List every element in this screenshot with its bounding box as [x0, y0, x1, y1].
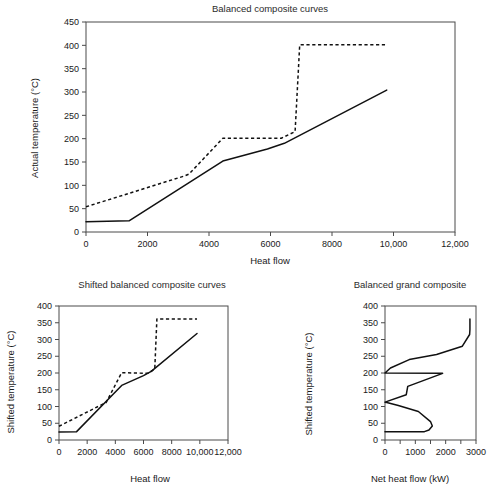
x-tick-label: 12,000	[441, 239, 469, 249]
y-tick-label: 100	[37, 402, 52, 412]
x-tick-label: 6000	[133, 447, 153, 457]
x-tick-label: 10,000	[380, 239, 408, 249]
y-tick-label: 250	[363, 351, 378, 361]
series-line	[86, 45, 387, 207]
series-line	[86, 90, 387, 222]
x-tick-label: 8000	[322, 239, 342, 249]
y-tick-label: 200	[37, 368, 52, 378]
series-group-bottom-right	[385, 319, 470, 432]
x-tick-label: 0	[382, 447, 387, 457]
x-axis-label-bottom-left: Heat flow	[130, 473, 170, 484]
y-tick-label: 50	[42, 418, 52, 428]
figure-panel: Balanced composite curves 05010015020025…	[0, 0, 495, 504]
y-tick-label: 150	[37, 385, 52, 395]
series-line	[385, 319, 470, 432]
y-tick-label: 50	[69, 204, 79, 214]
x-tick-label: 4000	[105, 447, 125, 457]
y-tick-label: 300	[64, 87, 79, 97]
axes-bottom-right: 0501001502002503003504000100020003000	[363, 301, 486, 457]
x-tick-label: 4000	[199, 239, 219, 249]
y-tick-label: 100	[64, 181, 79, 191]
y-tick-label: 50	[368, 418, 378, 428]
chart-title-bottom-left: Shifted balanced composite curves	[78, 279, 226, 290]
y-tick-label: 150	[363, 385, 378, 395]
y-tick-label: 100	[363, 402, 378, 412]
axes-bottom-left: 0501001502002503003504000200040006000800…	[37, 301, 242, 457]
y-tick-label: 300	[37, 335, 52, 345]
y-tick-label: 300	[363, 335, 378, 345]
y-tick-label: 250	[37, 351, 52, 361]
y-tick-label: 0	[373, 435, 378, 445]
x-tick-label: 2000	[77, 447, 97, 457]
x-tick-label: 2000	[436, 447, 456, 457]
y-axis-label-bottom-left: Shifted temperature (°C)	[5, 330, 16, 433]
x-tick-label: 10,000	[186, 447, 214, 457]
x-tick-label: 12,000	[214, 447, 242, 457]
y-axis-label-top: Actual temperature (°C)	[29, 78, 40, 178]
x-tick-label: 3000	[466, 447, 486, 457]
x-axis-label-top: Heat flow	[250, 255, 290, 266]
y-tick-label: 0	[47, 435, 52, 445]
y-tick-label: 400	[37, 301, 52, 311]
series-line	[59, 319, 197, 426]
y-tick-label: 350	[363, 318, 378, 328]
x-axis-label-bottom-right: Net heat flow (kW)	[371, 473, 449, 484]
chart-balanced-composite-curves: Balanced composite curves 05010015020025…	[0, 0, 495, 272]
chart-title-bottom-right: Balanced grand composite	[354, 279, 467, 290]
series-group-top	[86, 45, 387, 222]
x-tick-label: 1000	[405, 447, 425, 457]
x-tick-label: 8000	[162, 447, 182, 457]
chart-shifted-balanced-composite-curves: Shifted balanced composite curves 050100…	[0, 272, 250, 504]
y-tick-label: 250	[64, 111, 79, 121]
y-tick-label: 350	[64, 64, 79, 74]
x-tick-label: 0	[83, 239, 88, 249]
y-tick-label: 350	[37, 318, 52, 328]
y-tick-label: 0	[74, 227, 79, 237]
y-tick-label: 450	[64, 17, 79, 27]
y-tick-label: 400	[64, 41, 79, 51]
axes-top: 0501001502002503003504004500200040006000…	[64, 17, 469, 249]
y-tick-label: 200	[363, 368, 378, 378]
series-line	[59, 333, 197, 431]
x-tick-label: 6000	[260, 239, 280, 249]
chart-title-top: Balanced composite curves	[212, 3, 328, 14]
x-tick-label: 0	[56, 447, 61, 457]
y-tick-label: 400	[363, 301, 378, 311]
y-tick-label: 200	[64, 134, 79, 144]
y-tick-label: 150	[64, 157, 79, 167]
series-group-bottom-left	[59, 319, 197, 432]
chart-balanced-grand-composite: Balanced grand composite 050100150200250…	[300, 272, 495, 504]
y-axis-label-bottom-right: Shifted temperature (°C)	[303, 332, 314, 435]
x-tick-label: 2000	[137, 239, 157, 249]
